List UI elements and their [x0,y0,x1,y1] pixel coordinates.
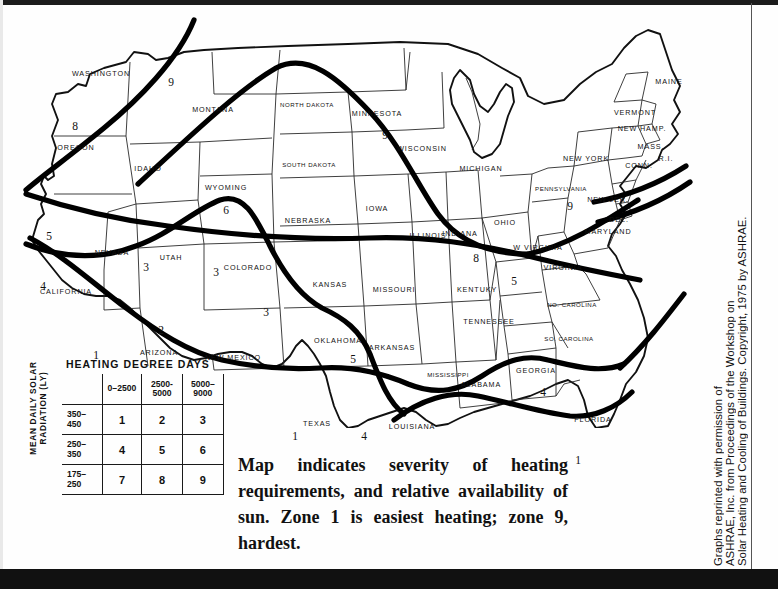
state-label-idaho: IDAHO [134,164,161,173]
zone-number: 2 [158,324,164,336]
state-label-louisiana: LOUISIANA [389,422,435,431]
zone-cell-r1c1: 5 [142,435,183,465]
credit-line-2: ASHRAE, Inc. from Proceedings of the Wor… [724,10,736,566]
zone-number: 9 [382,129,388,141]
zone-cell-r2c2: 9 [182,465,223,495]
state-label-maryland: MARYLAND [584,227,631,236]
state-label-nebraska: NEBRASKA [285,216,331,225]
zone-matrix-body: 350–450 1 2 3 250–350 4 5 6 175–250 7 8 … [62,405,224,495]
column-header-0: 0–2500 [102,374,141,405]
state-label-alabama: ALABAMA [461,380,501,389]
state-label-wisconsin: WISCONSIN [397,144,447,153]
state-label-california: CALIFORNIA [40,287,92,296]
zone-number: 3 [263,306,269,318]
state-label-mass: MASS. [638,142,665,151]
state-label-montana: MONTANA [192,105,234,114]
credit-line-3: Solar Heating and Cooling of Buildings. … [736,10,748,566]
row-header-2: 175–250 [62,465,102,495]
zone-number: 3 [143,261,149,273]
solar-radiation-axis-text: MEAN DAILY SOLAR RADIATION (LY) [28,361,48,454]
zone-matrix-table: 0–2500 2500-5000 5000–9000 350–450 1 2 3… [62,374,224,495]
state-label-kansas: KANSAS [313,280,348,289]
state-label-so-carolina: SO. CAROLINA [544,335,593,342]
row-header-0: 350–450 [62,405,102,435]
scan-edge-top [0,0,778,5]
zone-number: 3 [213,266,219,278]
table-row: 250–350 4 5 6 [62,435,224,465]
zone-number: 1 [292,430,298,442]
state-label-missouri: MISSOURI [373,285,416,294]
figure-credit: Graphs reprinted with permission of ASHR… [712,10,746,566]
credit-line-1: Graphs reprinted with permission of [712,10,724,566]
heating-degree-days-title: HEATING DEGREE DAYS [66,358,210,370]
column-rule [751,3,752,569]
zone-number: 8 [473,252,479,264]
state-label-georgia: GEORGIA [516,366,556,375]
zone-number: 1 [575,454,581,466]
state-label-arkansas: ARKANSAS [369,343,415,352]
zone-cell-r1c0: 4 [102,435,141,465]
state-label-new-jer: NEW JER. [587,195,629,204]
solar-radiation-axis-title: MEAN DAILY SOLAR RADIATION (LY) [28,358,48,458]
state-label-oregon: OREGON [57,143,94,152]
zone-number: 5 [46,230,52,242]
state-label-tennessee: TENNESSEE [463,317,515,326]
zone-cell-r2c1: 8 [142,465,183,495]
state-label-new-york: NEW YORK [563,154,609,163]
state-label-texas: TEXAS [303,419,331,428]
state-label-vermont: VERMONT [614,108,656,117]
state-label-nevada: NEVADA [95,248,129,257]
state-label-wyoming: WYOMING [205,183,247,192]
figure-page: WASHINGTONOREGONIDAHOMONTANAWYOMINGNEVAD… [0,0,778,589]
state-label-michigan: MICHIGAN [459,164,502,173]
zone-number: 4 [540,386,546,398]
zone-matrix-header-row: 0–2500 2500-5000 5000–9000 [62,374,224,405]
zone-number: 5 [350,353,356,365]
zone-number: 9 [567,200,573,212]
zone-lookup-table: HEATING DEGREE DAYS MEAN DAILY SOLAR RAD… [14,358,224,493]
state-label-minnesota: MINNESOTA [352,109,402,118]
state-label-mississippi: MISSISSIPPI [427,371,469,378]
zone-cell-r0c2: 3 [182,405,223,435]
state-label-florida: FLORIDA [574,415,611,424]
figure-caption: Map indicates severity of heating requir… [238,452,568,556]
zone-cell-r2c0: 7 [102,465,141,495]
state-label-new-hamp: NEW HAMP. [618,124,667,133]
zone-cell-r0c1: 2 [142,405,183,435]
state-label-colorado: COLORADO [224,263,272,272]
zone-number: 6 [223,204,229,216]
zone-cell-r0c0: 1 [102,405,141,435]
state-label-indiana: INDIANA [442,229,477,238]
scan-edge-bottom [0,569,778,589]
zone-cell-r1c2: 6 [182,435,223,465]
table-row: 175–250 7 8 9 [62,465,224,495]
state-label-conn: CONN. [625,161,653,170]
state-label-iowa: IOWA [366,204,389,213]
zone-number: 8 [72,120,78,132]
state-label-no-carolina: NO. CAROLINA [547,301,597,308]
state-label-r-i: R.I. [659,154,674,163]
state-label-utah: UTAH [160,253,183,262]
zone-matrix-head: 0–2500 2500-5000 5000–9000 [62,374,224,405]
column-header-2: 5000–9000 [182,374,223,405]
state-label-oklahoma: OKLAHOMA [314,336,362,345]
table-row: 350–450 1 2 3 [62,405,224,435]
state-label-washington: WASHINGTON [72,69,130,78]
zone-number: 4 [361,430,367,442]
state-label-south-dakota: SOUTH DAKOTA [282,161,336,168]
state-label-del: DEL. [609,215,629,224]
state-label-ohio: OHIO [494,218,516,227]
row-header-1: 250–350 [62,435,102,465]
state-label-w-virginia: W VIRGINIA [513,243,562,252]
state-label-illinois: ILLINOIS [410,231,447,240]
zone-number: 9 [168,76,174,88]
zone-number: 4 [40,280,46,292]
scan-edge-left [0,0,3,575]
table-corner-cell [62,374,102,405]
state-label-virginia: VIRGINIA [544,263,583,272]
state-label-maine: MAINE [655,77,682,86]
column-header-1: 2500-5000 [142,374,183,405]
state-label-kentuky: KENTUKY [457,285,497,294]
zone-number: 5 [511,275,517,287]
state-label-arizona: ARIZONA [140,348,178,357]
